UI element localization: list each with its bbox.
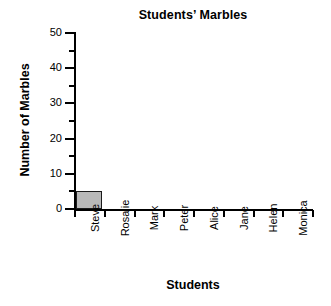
- y-axis-major-tick: [65, 102, 74, 104]
- y-tick-label: 10: [36, 168, 62, 179]
- x-axis-tick: [74, 210, 76, 217]
- x-axis-title: Students: [74, 278, 312, 292]
- x-category-label: Jane: [238, 206, 250, 230]
- x-category-label: Rosalie: [119, 200, 131, 237]
- x-category-label: Alice: [208, 206, 220, 230]
- x-axis-tick: [134, 210, 136, 217]
- x-category-label: Steve: [89, 204, 101, 232]
- x-category-label-slot: Monica: [291, 218, 303, 278]
- x-axis-tick: [282, 210, 284, 217]
- x-category-label-slot: Alice: [202, 218, 214, 278]
- y-axis-major-tick: [65, 138, 74, 140]
- x-category-label: Monica: [297, 200, 309, 235]
- x-category-label: Peter: [178, 205, 190, 231]
- x-category-label-slot: Steve: [83, 218, 95, 278]
- x-category-label-slot: Jane: [232, 218, 244, 278]
- x-category-label-slot: Peter: [172, 218, 184, 278]
- bar-chart-figure: Students’ Marbles Number of Marbles 0102…: [0, 0, 331, 306]
- y-axis-tick-labels: 01020304050: [36, 0, 62, 306]
- y-axis-major-tick: [65, 67, 74, 69]
- x-axis-tick: [223, 210, 225, 217]
- y-axis-title: Number of Marbles: [18, 40, 32, 200]
- y-tick-label: 50: [36, 27, 62, 38]
- x-axis-tick: [163, 210, 165, 217]
- plot-area: [74, 33, 312, 209]
- x-category-label-slot: Rosalie: [113, 218, 125, 278]
- y-axis-major-tick: [65, 208, 74, 210]
- y-tick-label: 0: [36, 203, 62, 214]
- chart-title: Students’ Marbles: [74, 8, 312, 22]
- x-category-label: Mark: [148, 206, 160, 230]
- y-tick-label: 40: [36, 62, 62, 73]
- x-axis-tick: [193, 210, 195, 217]
- x-category-label: Helen: [267, 204, 279, 233]
- x-category-label-slot: Mark: [142, 218, 154, 278]
- y-tick-label: 20: [36, 133, 62, 144]
- x-axis-tick: [312, 210, 314, 217]
- y-axis-major-tick: [65, 32, 74, 34]
- x-axis-tick: [104, 210, 106, 217]
- y-axis-major-tick: [65, 173, 74, 175]
- y-tick-label: 30: [36, 97, 62, 108]
- x-category-label-slot: Helen: [261, 218, 273, 278]
- x-axis-tick: [253, 210, 255, 217]
